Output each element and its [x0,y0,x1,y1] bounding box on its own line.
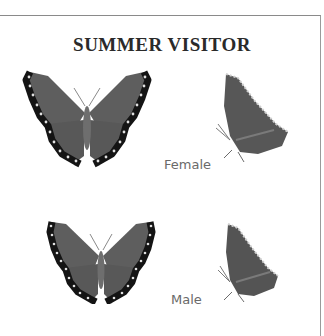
male-butterfly-side-icon [216,220,296,305]
female-label: Female [164,157,211,172]
male-label: Male [171,292,202,307]
male-butterfly-open-icon [40,218,162,304]
female-butterfly-side-icon [214,70,304,165]
page-title: SUMMER VISITOR [0,34,324,56]
female-butterfly-open-icon [18,68,156,168]
